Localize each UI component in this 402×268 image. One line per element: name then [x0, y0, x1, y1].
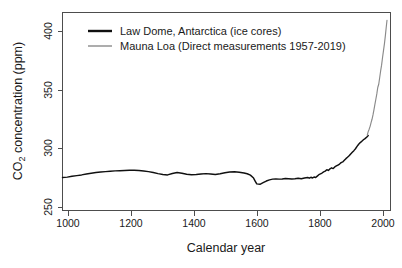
co2-concentration-chart: 250 300 350 400 1000 1200 1400 1600 1800…	[0, 0, 402, 268]
chart-canvas: 250 300 350 400 1000 1200 1400 1600 1800…	[0, 0, 402, 268]
y-tick-label-400: 400	[42, 22, 54, 40]
y-axis-ticks	[58, 32, 63, 208]
y-axis-title-post: concentration (ppm)	[11, 42, 25, 157]
y-tick-label-250: 250	[42, 198, 54, 216]
x-tick-label-1200: 1200	[119, 217, 143, 229]
x-tick-label-2000: 2000	[371, 217, 395, 229]
x-tick-label-1000: 1000	[56, 217, 80, 229]
series-line-law-dome	[63, 136, 369, 185]
y-axis-title: CO2 concentration (ppm)	[11, 42, 27, 180]
x-tick-label-1600: 1600	[245, 217, 269, 229]
series-line-mauna-loa	[367, 20, 387, 135]
legend-label-mauna-loa: Mauna Loa (Direct measurements 1957-2019…	[120, 40, 346, 52]
x-tick-label-1800: 1800	[308, 217, 332, 229]
x-axis-title: Calendar year	[187, 241, 266, 255]
chart-legend: Law Dome, Antarctica (ice cores) Mauna L…	[88, 25, 346, 52]
y-axis-title-pre: CO	[11, 161, 25, 180]
y-tick-label-350: 350	[42, 81, 54, 99]
x-axis-tick-labels: 1000 1200 1400 1600 1800 2000	[56, 217, 395, 229]
y-axis-tick-labels: 250 300 350 400	[42, 22, 54, 216]
y-tick-label-300: 300	[42, 139, 54, 157]
x-tick-label-1400: 1400	[182, 217, 206, 229]
x-axis-ticks	[69, 211, 384, 216]
legend-label-law-dome: Law Dome, Antarctica (ice cores)	[120, 25, 281, 37]
